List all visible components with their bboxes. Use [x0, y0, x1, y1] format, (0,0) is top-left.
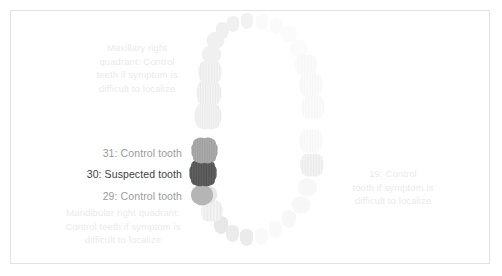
mandibular-left-teeth	[255, 178, 318, 245]
maxillary-anterior-teeth	[241, 13, 283, 34]
maxillary-left-teeth	[281, 26, 325, 119]
tooth-label-30-suspected: 30: Suspected tooth	[22, 168, 182, 180]
tooth-label-29: 29: Control tooth	[22, 190, 182, 202]
tooth-30	[189, 160, 216, 187]
tooth-29	[191, 185, 213, 206]
caption-maxillary-right-quadrant: Maxillary right quadrant: Control teeth …	[78, 41, 196, 95]
caption-mandibular-right-quadrant: Mandibular right quadrant: Control teeth…	[42, 206, 204, 247]
tooth-label-31: 31: Control tooth	[22, 147, 182, 159]
caption-tooth-19: 19: Control tooth if symptom is difficul…	[318, 167, 468, 208]
mandibular-anterior-teeth	[214, 216, 253, 246]
maxillary-right-teeth	[194, 16, 239, 129]
tooth-31	[191, 138, 217, 164]
dental-diagram-canvas: Maxillary right quadrant: Control teeth …	[0, 0, 502, 276]
